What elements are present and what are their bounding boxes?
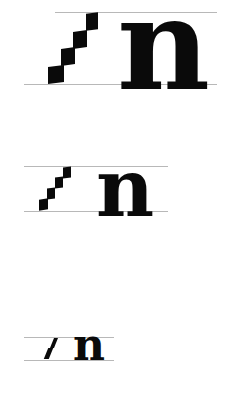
letter-n-medium: n — [96, 148, 154, 228]
letter-n-large: n — [117, 0, 210, 108]
letter-n-small: n — [73, 323, 105, 367]
